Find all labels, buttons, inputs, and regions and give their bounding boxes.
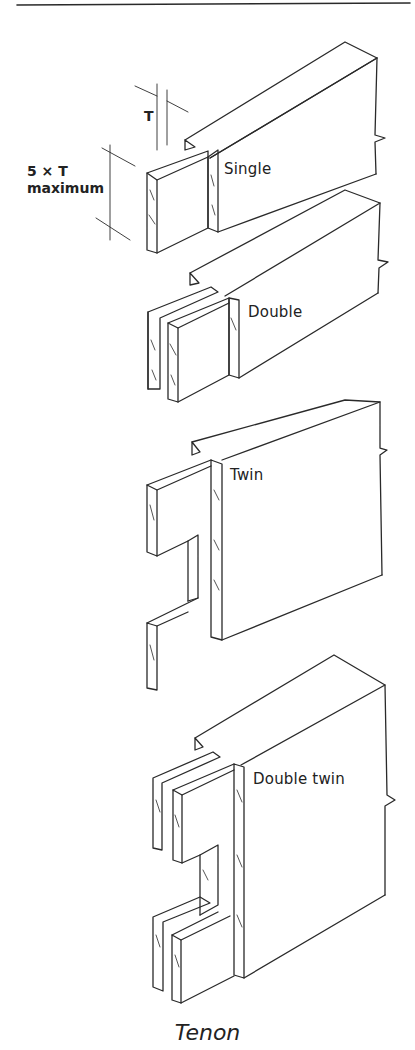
- top-rule: [17, 3, 410, 5]
- twin-tenon-drawing: [147, 400, 387, 690]
- thickness-label: T: [144, 108, 154, 124]
- single-tenon-drawing: [96, 42, 385, 253]
- label-single: Single: [224, 160, 271, 178]
- figure-caption: Tenon: [0, 1020, 415, 1045]
- double-twin-tenon-drawing: [153, 655, 395, 1003]
- max-height-label: 5 × T maximum: [27, 163, 104, 197]
- max-height-label-line2: maximum: [27, 180, 104, 197]
- double-tenon-drawing: [148, 190, 388, 402]
- max-height-label-line1: 5 × T: [27, 163, 104, 180]
- label-double-twin: Double twin: [253, 770, 345, 788]
- label-twin: Twin: [230, 466, 263, 484]
- tenon-illustration: [0, 0, 415, 1050]
- label-double: Double: [248, 303, 302, 321]
